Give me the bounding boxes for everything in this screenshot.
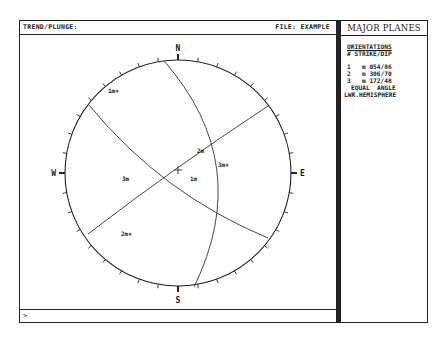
plane-label: 2m+: [121, 230, 132, 237]
north-label: N: [176, 44, 181, 53]
center-cross-icon: [174, 166, 182, 174]
plane-label: 3m+: [218, 161, 229, 168]
west-label: W: [51, 169, 56, 178]
plane-label: 2m: [197, 147, 205, 154]
plane-label: 3m: [122, 175, 130, 182]
plane-label: 1m+: [108, 87, 119, 94]
plane-labels: 1m+2m3m+3m1m2m+: [108, 87, 229, 237]
plane-label: 1m: [190, 175, 198, 182]
great-circle-2: [89, 105, 268, 238]
great-circle-3: [164, 61, 218, 287]
stereonet-plot[interactable]: N S E W 1m+2m3m+3m1m2m+: [0, 0, 446, 339]
east-label: E: [300, 169, 305, 178]
south-label: S: [176, 296, 181, 305]
